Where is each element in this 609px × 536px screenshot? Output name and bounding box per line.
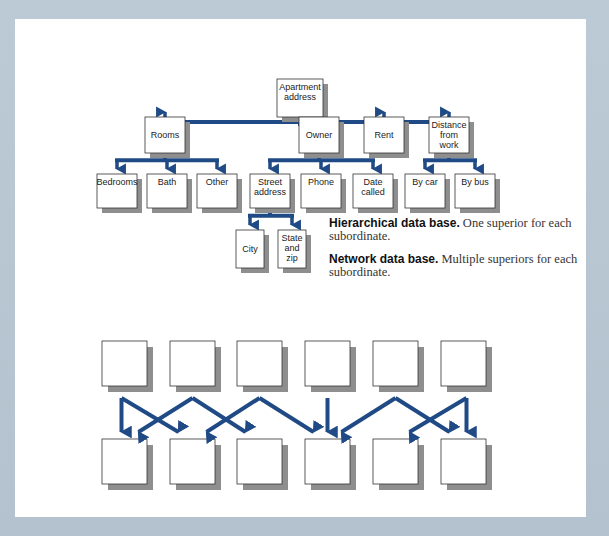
network-top-node-6 — [441, 341, 492, 392]
network-top-node-4 — [305, 341, 356, 392]
node-box — [305, 439, 350, 484]
node-label: address — [284, 92, 317, 102]
network-edge-3-to-4 — [260, 398, 314, 432]
caption-network-lead: Network data base. — [329, 252, 438, 266]
node-label: Street — [258, 177, 283, 187]
node-label: Bedrooms — [96, 177, 138, 187]
caption-network: Network data base. Multiple superiors fo… — [329, 253, 589, 279]
node-owner: Owner — [299, 117, 344, 158]
network-top-node-3 — [237, 341, 288, 392]
node-distance: Distancefromwork — [429, 117, 474, 158]
node-box — [170, 439, 215, 484]
node-label: State — [281, 233, 302, 243]
node-box — [237, 341, 282, 386]
node-label: City — [242, 244, 258, 254]
node-label: zip — [286, 253, 298, 263]
node-label: address — [254, 187, 287, 197]
node-label: Distance — [431, 120, 466, 130]
node-box — [373, 341, 418, 386]
network-bottom-node-3 — [237, 439, 288, 490]
node-label: and — [284, 243, 299, 253]
node-box — [102, 439, 147, 484]
caption-hierarchical-lead: Hierarchical data base. — [329, 216, 460, 230]
node-datecalled: Datecalled — [353, 174, 398, 213]
node-other: Other — [197, 174, 242, 213]
network-edge-2-to-3 — [193, 398, 246, 432]
network-edge-5-to-4 — [342, 398, 396, 432]
network-bottom-node-2 — [170, 439, 221, 490]
node-label: Owner — [306, 130, 333, 140]
network-diagram — [102, 341, 492, 490]
node-label: work — [438, 140, 459, 150]
caption-hierarchical: Hierarchical data base. One superior for… — [329, 217, 589, 243]
node-box — [373, 439, 418, 484]
node-bybus: By bus — [455, 174, 500, 213]
network-top-node-1 — [102, 341, 153, 392]
node-label: By bus — [461, 177, 489, 187]
node-bath: Bath — [147, 174, 192, 213]
node-box — [441, 439, 486, 484]
node-rooms: Rooms — [145, 117, 190, 158]
node-phone: Phone — [301, 174, 346, 213]
network-edge-3-to-2 — [207, 398, 260, 432]
node-label: Phone — [308, 177, 334, 187]
network-top-node-2 — [170, 341, 221, 392]
node-label: Rooms — [151, 130, 180, 140]
node-street: Streetaddress — [250, 174, 295, 213]
node-apartment: Apartmentaddress — [277, 79, 328, 122]
node-city: City — [236, 230, 269, 273]
node-label: Apartment — [279, 82, 321, 92]
node-box — [305, 341, 350, 386]
network-bottom-node-4 — [305, 439, 356, 490]
node-label: Other — [206, 177, 229, 187]
node-label: By car — [412, 177, 438, 187]
node-box — [441, 341, 486, 386]
node-label: Rent — [374, 130, 394, 140]
node-bycar: By car — [405, 174, 450, 213]
node-box — [102, 341, 147, 386]
node-label: from — [440, 130, 458, 140]
network-bottom-node-6 — [441, 439, 492, 490]
node-label: called — [361, 187, 385, 197]
hierarchical-diagram: ApartmentaddressRoomsOwnerRentDistancefr… — [96, 79, 500, 273]
network-bottom-node-1 — [102, 439, 153, 490]
node-rent: Rent — [364, 117, 409, 158]
node-bedrooms: Bedrooms — [96, 174, 142, 213]
node-box — [237, 439, 282, 484]
node-label: Bath — [158, 177, 177, 187]
network-bottom-node-5 — [373, 439, 424, 490]
node-label: Date — [363, 177, 382, 187]
network-top-node-5 — [373, 341, 424, 392]
node-statezip: Stateandzip — [278, 230, 311, 273]
node-box — [170, 341, 215, 386]
